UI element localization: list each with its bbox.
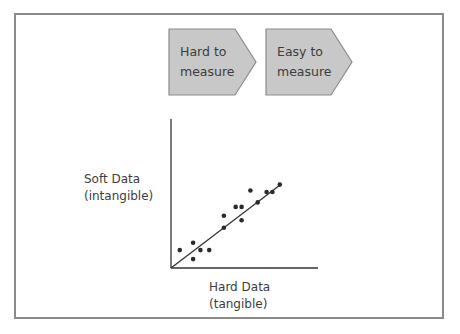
data-point	[270, 190, 275, 195]
data-point	[222, 214, 227, 219]
data-point	[239, 205, 244, 210]
x-axis-label-line1: Hard Data	[209, 279, 270, 296]
scatter-points	[178, 182, 283, 261]
data-point	[222, 226, 227, 231]
data-point	[255, 200, 260, 205]
data-point	[178, 248, 183, 253]
y-axis-label-line1: Soft Data	[84, 171, 153, 188]
chevron-hard-line1: Hard to	[180, 42, 235, 62]
x-axis-label: Hard Data (tangible)	[209, 279, 270, 313]
data-point	[191, 240, 196, 245]
chevron-easy-label: Easy to measure	[277, 42, 332, 82]
data-point	[233, 205, 238, 210]
y-axis-label: Soft Data (intangible)	[84, 171, 153, 205]
data-point	[191, 257, 196, 262]
data-point	[278, 182, 283, 187]
data-point	[248, 188, 253, 193]
chevron-hard-label: Hard to measure	[180, 42, 235, 82]
data-point	[198, 248, 203, 253]
chevron-easy-line1: Easy to	[277, 42, 332, 62]
y-axis-label-line2: (intangible)	[84, 188, 153, 205]
data-point	[239, 218, 244, 223]
data-point	[207, 248, 212, 253]
chevron-hard-line2: measure	[180, 62, 235, 82]
chevron-easy-line2: measure	[277, 62, 332, 82]
x-axis-label-line2: (tangible)	[209, 296, 270, 313]
data-point	[264, 190, 269, 195]
